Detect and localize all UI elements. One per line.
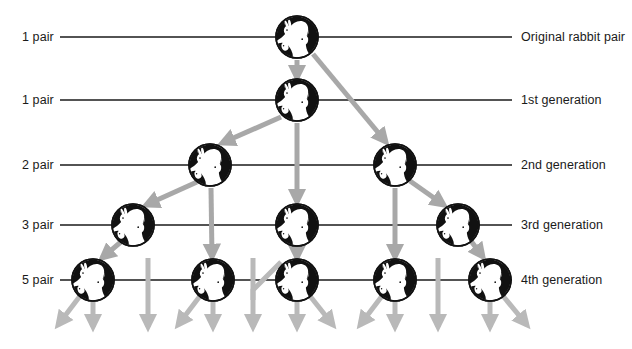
rabbit-pair-icon[interactable] — [374, 144, 416, 186]
rabbit-pair-icon[interactable] — [276, 204, 318, 246]
row-label-right-1: 1st generation — [521, 94, 602, 107]
fibonacci-rabbit-diagram: 1 pair Original rabbit pair 1 pair 1st g… — [0, 0, 632, 349]
row-label-right-0: Original rabbit pair — [521, 31, 625, 44]
rabbit-pair-icon[interactable] — [469, 259, 511, 301]
rabbit-pair-icon[interactable] — [276, 16, 318, 58]
arrow-out-b-left — [178, 296, 200, 325]
rabbit-pair-icon[interactable] — [189, 144, 231, 186]
arrow-breed-r1-r2left — [222, 117, 281, 143]
arrow-survive-r2left-r4 — [211, 188, 212, 257]
arrow-breed-r3right-r4e — [471, 241, 483, 257]
row-label-right-2: 2nd generation — [521, 159, 606, 172]
row-label-left-2: 2 pair — [22, 159, 54, 172]
arrow-breed-r2right-r3right — [410, 181, 444, 205]
arrow-breed-r3left-r4a — [102, 241, 122, 258]
arrow-out-c-right — [310, 296, 333, 325]
rabbit-nodes — [72, 16, 511, 301]
arrow-out-a-left — [58, 296, 80, 325]
row-label-left-4: 5 pair — [22, 274, 54, 287]
row-label-right-4: 4th generation — [521, 274, 602, 287]
diagram-canvas — [0, 0, 632, 349]
arrow-out-e-right — [503, 296, 527, 325]
rabbit-pair-icon[interactable] — [374, 259, 416, 301]
rabbit-pair-icon[interactable] — [276, 79, 318, 121]
rabbit-pair-icon[interactable] — [276, 259, 318, 301]
arrow-breed-r2left-r3left — [146, 182, 197, 205]
rabbit-pair-icon[interactable] — [192, 259, 234, 301]
row-label-left-1: 1 pair — [22, 94, 54, 107]
row-label-right-3: 3rd generation — [521, 219, 603, 232]
rabbit-pair-icon[interactable] — [437, 204, 479, 246]
arrow-out-d-left — [360, 296, 382, 325]
arrow-breed-r0-r2right — [313, 54, 386, 142]
rabbit-pair-icon[interactable] — [112, 204, 154, 246]
row-label-left-0: 1 pair — [22, 31, 54, 44]
row-label-left-3: 3 pair — [22, 219, 54, 232]
rabbit-pair-icon[interactable] — [72, 259, 114, 301]
